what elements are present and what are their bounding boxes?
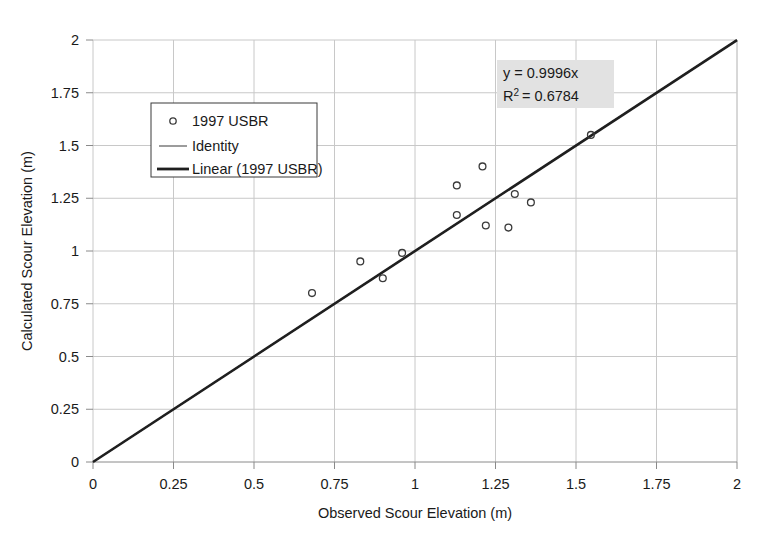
x-tick-label: 1.25 [481, 476, 509, 492]
y-tick-label: 1.5 [59, 138, 79, 154]
y-tick-label: 0.75 [51, 296, 79, 312]
y-tick-label: 1 [71, 243, 79, 259]
x-axis-tick-labels: 0 0.25 0.5 0.75 1 1.25 1.5 1.75 2 [89, 476, 741, 492]
legend-item-label-usbr: 1997 USBR [192, 113, 269, 129]
y-tick-label: 0.5 [59, 349, 79, 365]
y-axis-title: Calculated Scour Elevation (m) [19, 151, 35, 351]
y-tick-label: 1.25 [51, 190, 79, 206]
x-tick-label: 0 [89, 476, 97, 492]
x-tick-label: 1.5 [566, 476, 586, 492]
x-tick-label: 2 [733, 476, 741, 492]
r-squared-value: = 0.6784 [522, 88, 579, 104]
chart-canvas: 2 1.75 1.5 1.25 1 0.75 0.5 0.25 0 0 0.25… [0, 0, 771, 542]
r-squared-base: R [503, 88, 513, 104]
y-tick-label: 0 [71, 454, 79, 470]
x-tick-label: 1 [411, 476, 419, 492]
equation-line: y = 0.9996x [503, 65, 579, 81]
legend-item-label-identity: Identity [192, 138, 239, 154]
y-tick-label: 2 [71, 32, 79, 48]
y-tick-label: 1.75 [51, 85, 79, 101]
x-tick-label: 1.75 [642, 476, 670, 492]
x-tick-label: 0.5 [244, 476, 264, 492]
legend-item-label-linear: Linear (1997 USBR) [192, 161, 323, 177]
x-tick-label: 0.75 [320, 476, 348, 492]
equation-annotation: y = 0.9996x R2= 0.6784 [497, 60, 614, 108]
y-tick-label: 0.25 [51, 401, 79, 417]
chart-legend: 1997 USBR Identity Linear (1997 USBR) [151, 103, 323, 177]
r-squared-exponent: 2 [513, 87, 519, 98]
scatter-chart: 2 1.75 1.5 1.25 1 0.75 0.5 0.25 0 0 0.25… [0, 0, 771, 542]
x-tick-label: 0.25 [159, 476, 187, 492]
x-axis-title: Observed Scour Elevation (m) [318, 505, 512, 521]
